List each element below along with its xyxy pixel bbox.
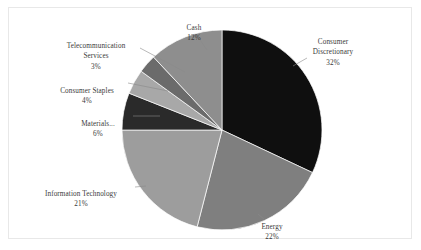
label-cash: Cash 12% <box>163 13 225 54</box>
pie-slice-group <box>122 30 322 230</box>
label-cash-text: Cash <box>187 24 202 32</box>
label-consumer-staples-text: Consumer Staples <box>60 87 114 95</box>
label-information-technology-text: Information Technology <box>45 190 117 198</box>
label-cash-pct: 12% <box>163 33 225 43</box>
label-consumer-discretionary-pct: 32% <box>296 58 370 68</box>
label-information-technology: Information Technology 21% <box>26 179 136 220</box>
label-telecommunication-services-pct: 3% <box>52 62 140 72</box>
label-consumer-staples: Consumer Staples 4% <box>44 76 130 117</box>
label-information-technology-pct: 21% <box>26 199 136 209</box>
label-materials-pct: 6% <box>62 129 134 139</box>
label-energy-text: Energy <box>261 223 282 231</box>
label-energy: Energy 22% <box>242 212 302 250</box>
label-telecommunication-services-text: Telecommunication Services <box>67 42 126 60</box>
label-materials-text: Materials... <box>81 120 115 128</box>
label-telecommunication-services: Telecommunication Services 3% <box>52 31 140 82</box>
label-consumer-discretionary: Consumer Discretionary 32% <box>296 27 370 78</box>
label-consumer-discretionary-text: Consumer Discretionary <box>313 38 353 56</box>
label-energy-pct: 22% <box>242 232 302 242</box>
label-consumer-staples-pct: 4% <box>44 96 130 106</box>
